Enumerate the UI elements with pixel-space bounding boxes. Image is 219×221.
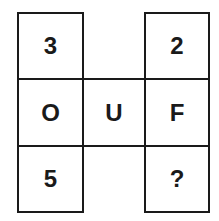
cell-r3c1: 5 [17, 145, 84, 213]
cell-r2c3: F [144, 78, 210, 147]
cell-r3c3-question: ? [144, 145, 210, 213]
cell-r1c3: 2 [144, 12, 210, 80]
cell-r1c1: 3 [17, 12, 84, 80]
cell-r2c1: O [17, 78, 84, 147]
cell-r2c2: U [82, 78, 146, 147]
